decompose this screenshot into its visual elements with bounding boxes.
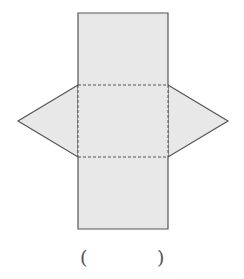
answer-open-paren: ( [80,246,87,268]
top-rectangle [78,13,168,85]
prism-net-diagram [0,0,244,279]
right-triangle [168,85,228,157]
left-triangle [18,85,78,157]
bottom-rectangle [78,157,168,229]
answer-close-paren: ) [157,246,164,268]
answer-blank[interactable] [96,246,156,268]
middle-rectangle [78,85,168,157]
